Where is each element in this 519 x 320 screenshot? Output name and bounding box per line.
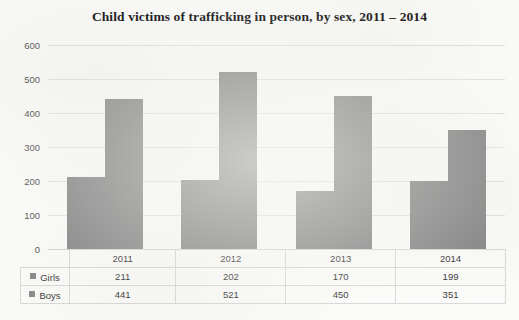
table-cell-boys-2011: 441 [70, 286, 176, 304]
table-header-row: 2011201220132014 [21, 250, 506, 268]
table-cell-girls-2013: 170 [286, 268, 396, 286]
bar-boys-2012 [219, 72, 257, 249]
y-axis-tick-label: 300 [24, 142, 40, 153]
table-row: Girls211202170199 [21, 268, 506, 286]
legend-swatch-icon [29, 291, 35, 297]
legend-item-boys[interactable]: Boys [21, 286, 70, 304]
y-axis-tick-label: 100 [24, 210, 40, 221]
chart-plot-area: 0100200300400500600 [0, 0, 519, 258]
y-axis: 0100200300400500600 [0, 0, 46, 258]
chart-data-table: 2011201220132014 Girls211202170199Boys44… [20, 249, 506, 304]
table-cell-boys-2012: 521 [176, 286, 286, 304]
table-cell-girls-2012: 202 [176, 268, 286, 286]
bars-group [48, 0, 505, 258]
table-cell-boys-2014: 351 [396, 286, 506, 304]
table-cell-boys-2013: 450 [286, 286, 396, 304]
legend-label: Girls [40, 271, 60, 282]
y-axis-tick-label: 400 [24, 108, 40, 119]
y-axis-tick-label: 200 [24, 176, 40, 187]
bar-girls-2013 [296, 191, 334, 249]
bar-girls-2014 [410, 181, 448, 249]
table-body: Girls211202170199Boys441521450351 [21, 268, 506, 304]
legend-swatch-icon [30, 273, 36, 279]
table-cell-girls-2014: 199 [396, 268, 506, 286]
table-corner-cell [21, 250, 70, 268]
table-year-header-2013: 2013 [286, 250, 396, 268]
bar-girls-2011 [67, 177, 105, 249]
bar-boys-2014 [448, 130, 486, 249]
legend-label: Boys [39, 289, 60, 300]
y-axis-tick-label: 500 [24, 74, 40, 85]
table-year-header-2012: 2012 [176, 250, 286, 268]
bar-girls-2012 [181, 180, 219, 249]
y-axis-tick-label: 600 [24, 40, 40, 51]
legend-item-girls[interactable]: Girls [21, 268, 70, 286]
bar-boys-2013 [334, 96, 372, 249]
table-cell-girls-2011: 211 [70, 268, 176, 286]
table-row: Boys441521450351 [21, 286, 506, 304]
table-year-header-2011: 2011 [70, 250, 176, 268]
table-year-header-2014: 2014 [396, 250, 506, 268]
bar-boys-2011 [105, 99, 143, 249]
